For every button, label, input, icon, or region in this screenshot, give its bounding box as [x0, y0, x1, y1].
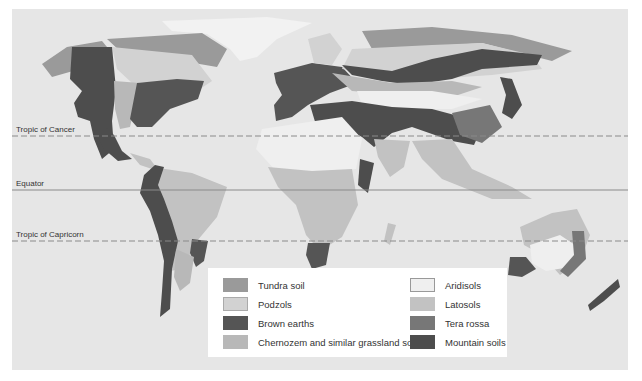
swatch-mountain-soils	[410, 335, 435, 349]
legend-item-brown-earths: Brown earths	[223, 316, 314, 330]
legend-label: Tera rossa	[445, 318, 489, 329]
africa-latosols	[268, 167, 358, 251]
ethiopia	[358, 159, 374, 193]
tropic-of-capricorn-label: Tropic of Capricorn	[16, 230, 84, 239]
legend-label: Aridisols	[445, 280, 481, 291]
india	[374, 139, 410, 177]
legend-item-tundra-soil: Tundra soil	[223, 278, 305, 292]
legend-label: Podzols	[258, 299, 292, 310]
legend-item-podzols: Podzols	[223, 297, 292, 311]
new-zealand	[588, 279, 620, 311]
legend-item-chernozem: Chernozem and similar grassland soils	[223, 335, 421, 349]
swatch-podzols	[223, 297, 248, 311]
legend-item-tera-rossa: Tera rossa	[410, 316, 489, 330]
legend-label: Tundra soil	[258, 280, 305, 291]
swatch-brown-earths	[223, 316, 248, 330]
japan	[500, 77, 522, 119]
legend-item-aridisols: Aridisols	[410, 278, 481, 292]
swatch-tera-rossa	[410, 316, 435, 330]
legend-label: Chernozem and similar grassland soils	[258, 337, 421, 348]
swatch-chernozem	[223, 335, 248, 349]
na-brown-earths	[130, 79, 204, 127]
legend-label: Mountain soils	[445, 337, 506, 348]
legend-item-mountain-soils: Mountain soils	[410, 335, 506, 349]
legend-item-latosols: Latosols	[410, 297, 480, 311]
legend: Tundra soil Podzols Brown earths Chernoz…	[208, 268, 507, 357]
scandinavia	[308, 33, 342, 65]
legend-label: Latosols	[445, 299, 480, 310]
sahara	[256, 117, 362, 173]
equator-label: Equator	[16, 179, 44, 188]
tropic-of-cancer-label: Tropic of Cancer	[16, 125, 75, 134]
legend-label: Brown earths	[258, 318, 314, 329]
south-africa	[306, 243, 330, 269]
swatch-tundra-soil	[223, 278, 248, 292]
swatch-latosols	[410, 297, 435, 311]
madagascar	[384, 223, 396, 245]
swatch-aridisols	[410, 278, 435, 292]
